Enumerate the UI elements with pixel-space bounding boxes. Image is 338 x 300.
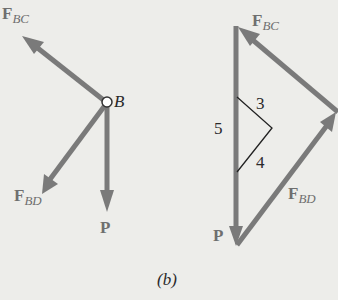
force-bd-arrow [48,104,106,182]
label-f-bc-right: FBC [252,11,279,31]
label-f-bc-left: FBC [2,4,29,24]
slope-triangle [237,97,272,172]
slope-label-4: 4 [256,153,265,173]
figure-caption: (b) [157,270,177,290]
force-subscript: BC [12,11,29,26]
label-f-bd-right: FBD [288,184,316,204]
force-subscript: BD [298,191,315,206]
slope-label-5: 5 [214,119,223,139]
force-p-arrowhead [100,190,114,212]
label-p-right: P [213,226,223,246]
force-name: P [100,218,110,237]
force-name: F [2,4,12,23]
slope-label-3: 3 [256,94,265,114]
force-triangle [229,26,338,246]
force-subscript: BD [24,193,41,208]
node-b-label: B [114,92,124,112]
force-bc-arrow [30,42,106,102]
force-subscript: BC [262,18,279,33]
node-b-circle [102,97,112,107]
diagram-canvas [0,0,338,300]
force-name: F [252,11,262,30]
label-p-left: P [100,218,110,238]
force-name: F [14,186,24,205]
label-f-bd-left: FBD [14,186,42,206]
force-name: F [288,184,298,203]
force-name: P [213,226,223,245]
